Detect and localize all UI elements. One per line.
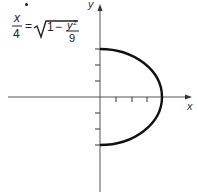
equation: x 4 = 1 − y 2 9 (12, 11, 79, 44)
eq-frac-numerator-exponent: 2 (73, 19, 77, 26)
eq-frac-denominator: 9 (69, 32, 75, 44)
eq-lhs-denominator: 4 (13, 27, 20, 41)
x-axis-label: x (186, 100, 193, 112)
eq-equals: = (25, 19, 32, 33)
eq-minus: − (55, 20, 62, 34)
y-axis-arrow-icon (98, 4, 103, 11)
y-axis-label: y (87, 0, 95, 10)
x-ticks (116, 97, 147, 102)
diagram-canvas: x 4 = 1 − y 2 9 x y (0, 0, 197, 192)
eq-one: 1 (47, 20, 54, 34)
ellipse-plot: x 4 = 1 − y 2 9 x y (0, 0, 197, 192)
eq-lhs-numerator: x (13, 11, 21, 25)
x-axis-arrow-icon (185, 95, 192, 100)
